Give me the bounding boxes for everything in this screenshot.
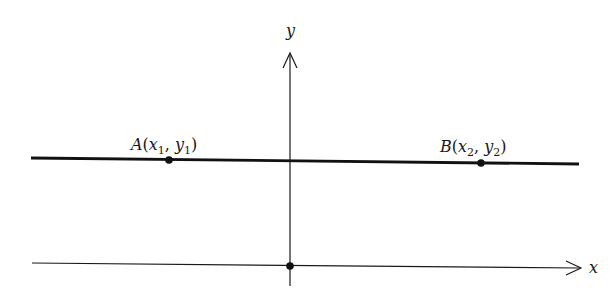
point-a-label: A(x1, y1) xyxy=(129,135,197,157)
origin-point xyxy=(286,262,294,270)
coordinate-diagram: y x A(x1, y1) B(x2, y2) xyxy=(0,0,616,298)
point-b-label: B(x2, y2) xyxy=(439,137,507,159)
x-axis-label: x xyxy=(589,258,598,277)
point-b xyxy=(477,159,485,167)
svg-text:A(x1, y1): A(x1, y1) xyxy=(129,135,197,157)
svg-text:B(x2, y2): B(x2, y2) xyxy=(439,137,507,159)
y-axis-label: y xyxy=(285,21,296,40)
x-axis xyxy=(32,263,580,268)
point-a xyxy=(165,156,173,164)
